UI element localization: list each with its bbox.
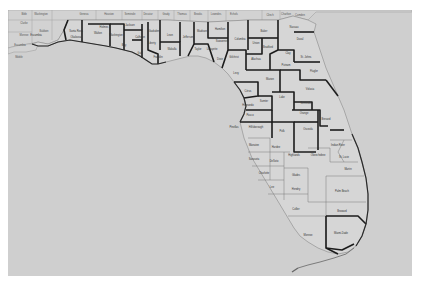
neighbor-county-label: Bibb bbox=[21, 12, 27, 16]
county-label: Bradford bbox=[263, 45, 274, 49]
county-label: Sarasota bbox=[249, 157, 260, 161]
county-label: Highlands bbox=[288, 153, 300, 157]
florida-county-map[interactable]: BibbWashingtonClarkeMonroeBaldwinEscambi… bbox=[8, 10, 412, 276]
county-label: Suwannee bbox=[216, 39, 229, 43]
county-label: Sumter bbox=[260, 99, 268, 103]
county-label: Dixie bbox=[217, 57, 223, 61]
neighbor-county-label: Echols bbox=[230, 12, 238, 16]
county-label: DeSoto bbox=[270, 159, 279, 163]
neighbor-county-label: Geneva bbox=[79, 12, 89, 16]
neighbor-county-label: Charlton bbox=[281, 12, 291, 16]
county-label: Palm Beach bbox=[335, 189, 350, 193]
county-label: Duval bbox=[297, 37, 304, 41]
county-label: Citrus bbox=[245, 89, 252, 93]
county-label: Hernando bbox=[242, 103, 254, 107]
county-label: Indian River bbox=[331, 143, 345, 147]
neighbor-county-label: Clarke bbox=[20, 21, 28, 25]
county-label: Charlotte bbox=[259, 171, 270, 175]
county-label: Madison bbox=[197, 29, 207, 33]
county-label: Escambia bbox=[30, 33, 42, 37]
county-label: Miami-Dade bbox=[334, 231, 349, 235]
county-label: Hendry bbox=[292, 187, 301, 191]
county-label: Santa Rosa bbox=[69, 29, 83, 33]
county-label: Pinellas bbox=[229, 125, 239, 129]
county-label: Collier bbox=[292, 207, 299, 211]
county-label: Calhoun bbox=[135, 35, 145, 39]
county-label: Flagler bbox=[310, 69, 318, 73]
neighbor-county-label: Clinch bbox=[266, 13, 274, 17]
neighbor-county-label: Lowndes bbox=[211, 12, 222, 16]
county-label: Brevard bbox=[321, 117, 331, 121]
neighbor-county-label: Decatur bbox=[143, 12, 152, 16]
neighbor-county-label: Baldwin bbox=[39, 29, 49, 33]
neighbor-county-label: Grady bbox=[162, 12, 170, 16]
county-label: Marion bbox=[266, 77, 274, 81]
neighbor-county-label: Monroe bbox=[20, 33, 29, 37]
county-label: Polk bbox=[279, 129, 285, 133]
county-label: Lake bbox=[279, 95, 285, 99]
county-label: Baker bbox=[261, 29, 268, 33]
county-label: Bay bbox=[122, 43, 127, 47]
county-label: Monroe bbox=[304, 233, 313, 237]
county-label: Pasco bbox=[246, 113, 254, 117]
county-label: Holmes bbox=[100, 25, 109, 29]
county-label: Gilchrist bbox=[229, 55, 239, 59]
county-label: Seminole bbox=[301, 101, 312, 105]
county-label: Gulf bbox=[138, 51, 143, 55]
county-label: Glades bbox=[292, 173, 301, 177]
county-label: Wakulla bbox=[167, 47, 177, 51]
county-label: Alachua bbox=[251, 57, 261, 61]
neighbor-county-label: Brooks bbox=[194, 12, 203, 16]
county-label: St. Johns bbox=[301, 55, 313, 59]
county-label: Manatee bbox=[249, 143, 260, 147]
county-label: Nassau bbox=[290, 25, 299, 29]
map-canvas[interactable]: BibbWashingtonClarkeMonroeBaldwinEscambi… bbox=[8, 10, 412, 276]
county-label: Washington bbox=[109, 33, 123, 37]
county-label: Jackson bbox=[125, 23, 135, 27]
county-label: Leon bbox=[167, 33, 173, 37]
neighbor-county-label: Mobile bbox=[15, 55, 23, 59]
county-label: Clay bbox=[285, 51, 291, 55]
neighbor-county-label: Camden bbox=[295, 13, 305, 17]
county-label: Hillsborough bbox=[249, 125, 264, 129]
county-label: Orange bbox=[300, 111, 309, 115]
county-label: Putnam bbox=[282, 63, 291, 67]
county-label: Volusia bbox=[306, 87, 315, 91]
county-label: Liberty bbox=[148, 41, 156, 45]
county-label: Jefferson bbox=[183, 35, 194, 39]
neighbor-county-label: Houston bbox=[104, 12, 114, 16]
neighbor-county-label: Escambia bbox=[14, 43, 26, 47]
neighbor-county-label: Washington bbox=[34, 12, 48, 16]
county-label: Lee bbox=[270, 185, 275, 189]
county-label: Levy bbox=[233, 71, 239, 75]
neighbor-county-label: Thomas bbox=[177, 12, 187, 16]
county-label: St. Lucie bbox=[339, 155, 350, 159]
county-label: Martin bbox=[344, 167, 352, 171]
county-label: Franklin bbox=[153, 55, 163, 59]
county-label: Okeechobee bbox=[311, 153, 326, 157]
county-label: Hamilton bbox=[215, 27, 226, 31]
county-label: Gadsden bbox=[149, 29, 160, 33]
county-label: Taylor bbox=[195, 47, 202, 51]
county-label: Broward bbox=[337, 209, 347, 213]
county-label: Walton bbox=[94, 31, 103, 35]
county-label: Lafayette bbox=[207, 47, 218, 51]
neighbor-county-label: Seminole bbox=[125, 12, 136, 16]
county-label: Hardee bbox=[272, 145, 281, 149]
county-label: Okaloosa bbox=[71, 35, 83, 39]
county-label: Columbia bbox=[235, 37, 247, 41]
county-label: Osceola bbox=[303, 127, 313, 131]
county-label: Union bbox=[253, 41, 260, 45]
